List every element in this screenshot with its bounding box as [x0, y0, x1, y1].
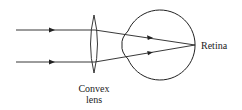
incident-ray-bottom: [16, 60, 95, 65]
eyeball: [122, 10, 195, 80]
arrow-icon: [49, 28, 55, 33]
retina-label: Retina: [201, 40, 228, 51]
refracted-ray-bottom: [95, 45, 195, 62]
lens-label-line2: lens: [86, 94, 102, 105]
arrow-icon: [147, 51, 153, 55]
incident-ray-top: [16, 28, 95, 33]
ray-diagram: Retina Convex lens: [0, 0, 242, 110]
arrow-icon: [49, 60, 55, 65]
lens-label-line1: Convex: [78, 83, 109, 94]
convex-lens: [91, 15, 98, 73]
arrow-icon: [147, 35, 153, 40]
refracted-ray-top: [95, 30, 195, 45]
